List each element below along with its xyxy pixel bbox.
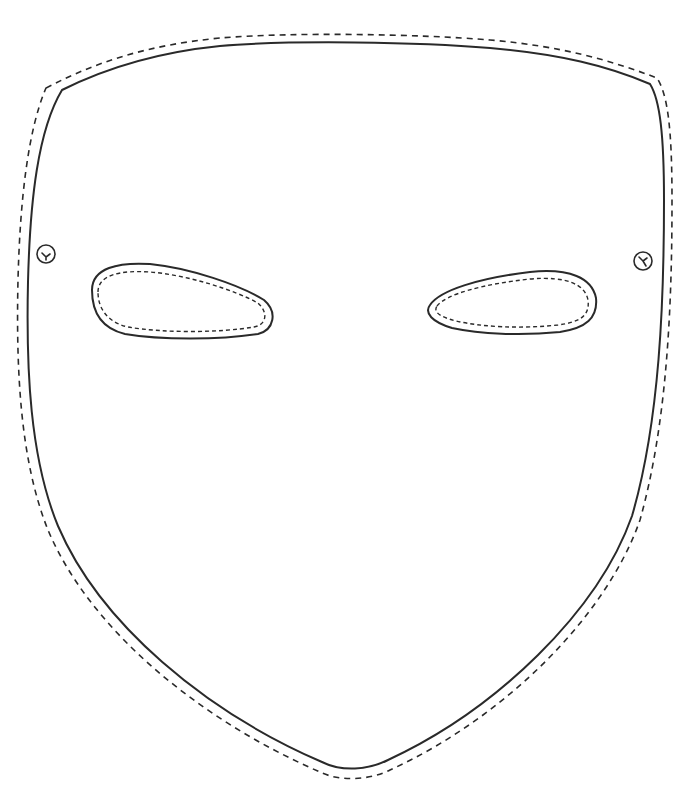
left-eye-inner-dashed [98, 272, 265, 332]
right-eye-cutout [428, 271, 596, 334]
left-eye-outline [92, 264, 273, 339]
mask-outline [28, 42, 664, 768]
left-string-hole [37, 245, 55, 263]
right-string-hole [634, 252, 652, 270]
outer-dashed-outline [18, 34, 672, 778]
left-eye-cutout [92, 264, 273, 339]
right-eye-inner-dashed [436, 278, 588, 327]
mask-template [0, 0, 694, 799]
